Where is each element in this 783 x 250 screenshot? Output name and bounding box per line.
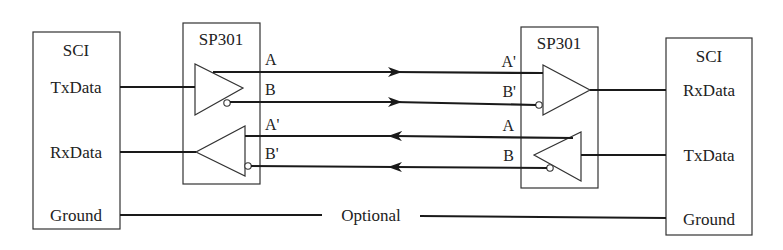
line-b-return [395, 167, 547, 168]
left-sci-block: SCI TxData RxData Ground [33, 32, 120, 229]
left-sci-pin-rxdata: RxData [50, 143, 102, 162]
left-driver-invert-bubble-icon [224, 100, 230, 106]
right-label-b-prime: B' [502, 83, 516, 100]
left-sp301-block: SP301 [183, 23, 260, 184]
local-connections [120, 87, 666, 155]
right-sp301-block: SP301 [521, 27, 598, 188]
left-label-a-prime: A' [265, 116, 280, 133]
left-label-b-prime: B' [265, 145, 279, 162]
right-label-a: A [502, 117, 514, 134]
left-receiver-invert-bubble-icon [245, 163, 251, 169]
left-receiver-icon [196, 126, 245, 176]
signal-labels: A B A' B' A' B' A B [265, 51, 516, 164]
line-a-return [395, 136, 573, 138]
left-label-b: B [265, 81, 276, 98]
right-receiver-invert-bubble-icon [536, 102, 542, 108]
ground-link: Optional [120, 206, 666, 225]
right-sci-pin-rxdata: RxData [683, 81, 735, 100]
ground-optional-label: Optional [341, 206, 401, 225]
serial-link-diagram: SCI TxData RxData Ground SP301 SP301 SCI… [0, 0, 783, 250]
right-sci-pin-ground: Ground [683, 210, 735, 229]
right-receiver-icon [543, 65, 590, 115]
right-label-b: B [503, 147, 514, 164]
left-sci-pin-ground: Ground [50, 206, 102, 225]
left-sp301-title: SP301 [199, 30, 243, 49]
right-driver-invert-bubble-icon [547, 165, 553, 171]
left-sci-title: SCI [63, 41, 90, 60]
right-sp301-title: SP301 [537, 34, 581, 53]
right-sci-title: SCI [696, 47, 723, 66]
left-sci-pin-txdata: TxData [51, 78, 102, 97]
right-sci-block: SCI RxData TxData Ground [666, 38, 752, 235]
right-driver-icon [534, 132, 581, 181]
left-label-a: A [265, 51, 277, 68]
right-label-a-prime: A' [502, 53, 517, 70]
right-sci-pin-txdata: TxData [684, 146, 735, 165]
